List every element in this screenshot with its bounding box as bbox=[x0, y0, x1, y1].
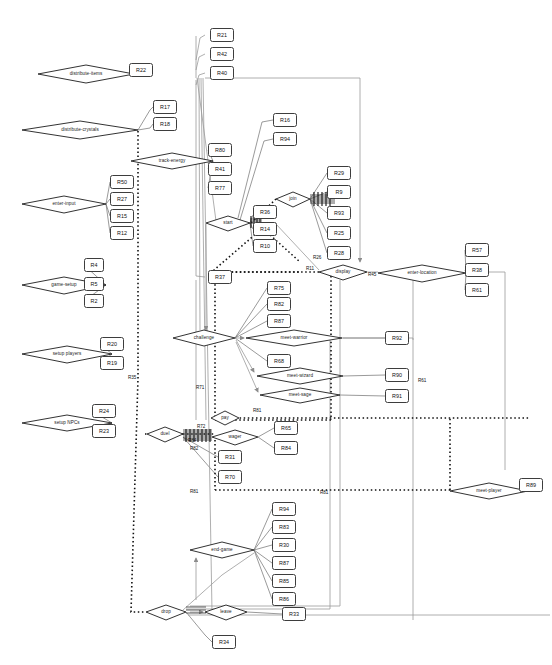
node-label: wager bbox=[212, 430, 258, 445]
rule-box[interactable]: R68 bbox=[267, 354, 291, 368]
rule-box[interactable]: R90 bbox=[385, 368, 409, 382]
rule-box[interactable]: R20 bbox=[100, 337, 124, 351]
rule-box[interactable]: R24 bbox=[92, 404, 116, 418]
rule-box[interactable]: R40 bbox=[210, 66, 234, 80]
rule-box[interactable]: R38 bbox=[465, 263, 489, 277]
rule-box[interactable]: R82 bbox=[267, 297, 291, 311]
rule-box[interactable]: R80 bbox=[208, 143, 232, 157]
rule-box[interactable]: R18 bbox=[153, 117, 177, 131]
node-label: join bbox=[276, 192, 310, 207]
node-label: start bbox=[206, 216, 250, 231]
node-duel[interactable]: duel bbox=[147, 427, 183, 442]
node-label: distribute-crystals bbox=[22, 121, 138, 139]
rule-box[interactable]: R4 bbox=[84, 258, 104, 272]
edge-label: R26 bbox=[313, 255, 321, 260]
node-label: challenge bbox=[173, 330, 235, 346]
rule-box[interactable]: R83 bbox=[272, 520, 296, 534]
node-leave[interactable]: leave bbox=[205, 605, 247, 620]
rule-box[interactable]: R27 bbox=[110, 192, 134, 206]
node-label: meet-player bbox=[450, 483, 528, 499]
node-label: leave bbox=[205, 605, 247, 620]
node-label: meet-warrior bbox=[246, 330, 342, 346]
rule-box[interactable]: R12 bbox=[110, 226, 134, 240]
node-label: setup players bbox=[22, 346, 112, 363]
rule-box[interactable]: R91 bbox=[385, 389, 409, 403]
rule-box[interactable]: R65 bbox=[274, 421, 298, 435]
node-meet-wizard[interactable]: meet-wizard bbox=[257, 368, 343, 384]
node-label: track-energy bbox=[131, 153, 213, 169]
node-meet-sage[interactable]: meet-sage bbox=[260, 388, 340, 403]
rule-box[interactable]: R86 bbox=[272, 592, 296, 606]
rule-box[interactable]: R34 bbox=[212, 635, 236, 649]
node-label: display bbox=[319, 265, 367, 280]
rule-box[interactable]: R87 bbox=[272, 556, 296, 570]
rule-box[interactable]: R85 bbox=[272, 574, 296, 588]
node-end-game[interactable]: end-game bbox=[190, 542, 254, 558]
rule-box[interactable]: R9 bbox=[327, 185, 351, 199]
rule-box[interactable]: R30 bbox=[272, 538, 296, 552]
node-enter-location[interactable]: enter-location bbox=[378, 265, 466, 282]
node-drop[interactable]: drop bbox=[146, 605, 186, 620]
rule-box[interactable]: R10 bbox=[253, 239, 277, 253]
rule-box[interactable]: R23 bbox=[92, 424, 116, 438]
rule-box[interactable]: R15 bbox=[110, 209, 134, 223]
rule-box[interactable]: R61 bbox=[465, 283, 489, 297]
rule-box[interactable]: R14 bbox=[253, 222, 277, 236]
node-label: meet-wizard bbox=[257, 368, 343, 384]
rule-box[interactable]: R5 bbox=[84, 277, 104, 291]
rule-box[interactable]: R25 bbox=[327, 226, 351, 240]
node-meet-player[interactable]: meet-player bbox=[450, 483, 528, 499]
edge-label: R71 bbox=[196, 385, 204, 390]
edge-label: R72 bbox=[197, 424, 205, 429]
node-distribute-crystals[interactable]: distribute-crystals bbox=[22, 121, 138, 139]
edge-label: R82 bbox=[190, 446, 198, 451]
node-distribute-items[interactable]: distribute-items bbox=[38, 65, 134, 83]
node-pay[interactable]: pay bbox=[211, 411, 239, 426]
rule-box[interactable]: R89 bbox=[519, 478, 543, 492]
rule-box[interactable]: R19 bbox=[100, 356, 124, 370]
node-setup-players[interactable]: setup players bbox=[22, 346, 112, 363]
flow-edges bbox=[183, 35, 550, 620]
node-wager[interactable]: wager bbox=[212, 430, 258, 445]
rule-box[interactable]: R94 bbox=[272, 502, 296, 516]
edge-label: R61 bbox=[418, 378, 426, 383]
node-meet-warrior[interactable]: meet-warrior bbox=[246, 330, 342, 346]
rule-box[interactable]: R21 bbox=[210, 28, 234, 42]
edge-label: R11 bbox=[306, 266, 314, 271]
node-track-energy[interactable]: track-energy bbox=[131, 153, 213, 169]
node-label: pay bbox=[211, 411, 239, 426]
rule-box[interactable]: R22 bbox=[129, 63, 153, 77]
rule-box[interactable]: R87 bbox=[267, 314, 291, 328]
node-enter-input[interactable]: enter-input bbox=[22, 196, 106, 213]
rule-box[interactable]: R29 bbox=[327, 166, 351, 180]
rule-box[interactable]: R92 bbox=[385, 331, 409, 345]
rule-box[interactable]: R75 bbox=[267, 281, 291, 295]
rule-box[interactable]: R31 bbox=[218, 450, 242, 464]
rule-box[interactable]: R50 bbox=[110, 175, 134, 189]
node-start[interactable]: start bbox=[206, 216, 250, 231]
node-join[interactable]: join bbox=[276, 192, 310, 207]
rule-box[interactable]: R28 bbox=[327, 246, 351, 260]
edge-label: R45 bbox=[368, 272, 376, 277]
rule-box[interactable]: R36 bbox=[253, 205, 277, 219]
edge-label: R84 bbox=[188, 438, 196, 443]
rule-box[interactable]: R77 bbox=[208, 181, 232, 195]
rule-box[interactable]: R42 bbox=[210, 47, 234, 61]
node-label: drop bbox=[146, 605, 186, 620]
rule-box[interactable]: R70 bbox=[218, 470, 242, 484]
node-label: enter-location bbox=[378, 265, 466, 282]
rule-box[interactable]: R84 bbox=[274, 441, 298, 455]
rule-box[interactable]: R16 bbox=[273, 113, 297, 127]
rule-box[interactable]: R17 bbox=[153, 100, 177, 114]
rule-box[interactable]: R93 bbox=[327, 206, 351, 220]
rule-box[interactable]: R37 bbox=[208, 270, 232, 284]
rule-box[interactable]: R41 bbox=[208, 162, 232, 176]
rule-box[interactable]: R33 bbox=[282, 607, 306, 621]
rule-box[interactable]: R94 bbox=[273, 132, 297, 146]
rule-box[interactable]: R2 bbox=[84, 294, 104, 308]
node-label: meet-sage bbox=[260, 388, 340, 403]
rule-box[interactable]: R57 bbox=[465, 243, 489, 257]
node-label: enter-input bbox=[22, 196, 106, 213]
node-challenge[interactable]: challenge bbox=[173, 330, 235, 346]
node-display[interactable]: display bbox=[319, 265, 367, 280]
